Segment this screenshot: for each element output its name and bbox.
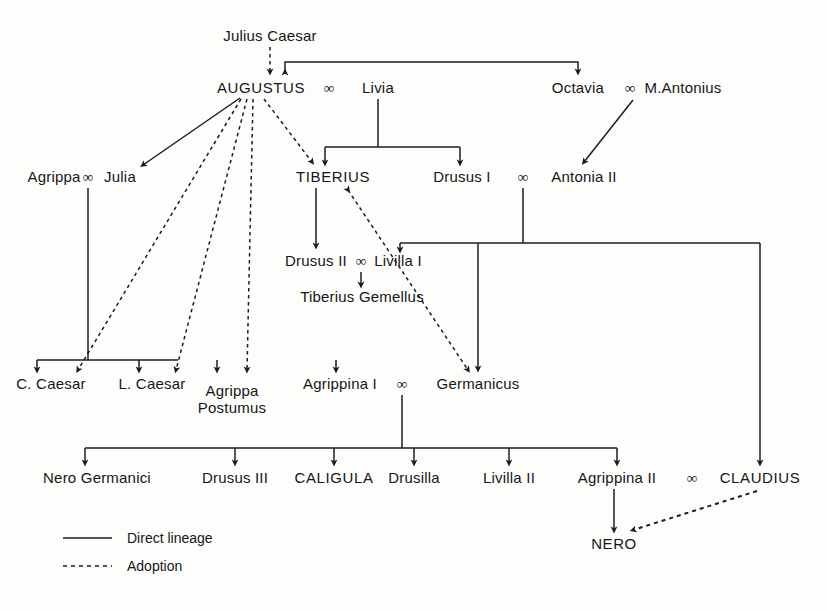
node-antonia-ii[interactable]: Antonia II [551, 169, 616, 186]
marriage-symbol-agrippa-julia: ∞ [83, 169, 94, 186]
node-livilla-i[interactable]: Livilla I [374, 253, 422, 270]
node-label: Livia [362, 79, 394, 96]
node-label: L. Caesar [119, 375, 186, 392]
node-drusilla[interactable]: Drusilla [388, 470, 440, 487]
node-drusus-ii[interactable]: Drusus II [285, 253, 347, 270]
marriage-symbol-agrippina-claudius: ∞ [687, 470, 698, 487]
node-agrippa-postumus[interactable]: Agrippa Postumus [198, 366, 266, 416]
node-label: NERO [591, 535, 637, 552]
node-claudius[interactable]: CLAUDIUS [720, 470, 801, 487]
node-label: Drusilla [388, 469, 440, 486]
marriage-symbol-octavia-antonius: ∞ [625, 80, 636, 97]
node-label: CALIGULA [295, 469, 374, 486]
node-nero-germanici[interactable]: Nero Germanici [43, 470, 151, 487]
node-label: Nero Germanici [43, 469, 151, 486]
node-nero[interactable]: NERO [591, 536, 637, 553]
node-label: Octavia [552, 79, 604, 96]
node-label: TIBERIUS [296, 168, 370, 185]
marriage-symbol-drusus-antonia: ∞ [518, 169, 529, 186]
node-label: CLAUDIUS [720, 469, 801, 486]
node-label: M.Antonius [644, 79, 721, 96]
node-julius-caesar[interactable]: Julius Caesar [223, 28, 316, 45]
node-drusus-iii[interactable]: Drusus III [202, 470, 268, 487]
node-drusus-i[interactable]: Drusus I [433, 169, 490, 186]
node-julia[interactable]: Julia [104, 169, 136, 186]
legend-adoption-label: Adoption [127, 558, 182, 574]
node-m-antonius[interactable]: M.Antonius [644, 80, 721, 97]
edge-adoption-augustus-ccaesar [78, 99, 241, 370]
node-augustus[interactable]: AUGUSTUS [217, 80, 305, 97]
node-label: AUGUSTUS [217, 79, 305, 96]
node-agrippina-i[interactable]: Agrippina I [303, 376, 377, 393]
node-tiberius[interactable]: TIBERIUS [296, 169, 370, 186]
node-label: Livilla I [374, 252, 422, 269]
edge-adoption-augustus-postumus [247, 99, 253, 370]
node-livilla-ii[interactable]: Livilla II [483, 470, 535, 487]
node-label: Agrippina I [303, 375, 377, 392]
node-agrippina-ii[interactable]: Agrippina II [578, 470, 656, 487]
legend-direct-label: Direct lineage [127, 530, 213, 546]
node-agrippa[interactable]: Agrippa [27, 169, 80, 186]
node-c-caesar[interactable]: C. Caesar [16, 376, 85, 393]
node-label: Agrippina II [578, 469, 656, 486]
node-octavia[interactable]: Octavia [552, 80, 604, 97]
node-label: Drusus I [433, 168, 490, 185]
node-label: Germanicus [437, 375, 520, 392]
marriage-symbol-drususii-livilla: ∞ [356, 253, 367, 270]
node-label: Agrippa Postumus [198, 382, 266, 416]
marriage-symbol-agrippina-germanicus: ∞ [397, 376, 408, 393]
node-livia[interactable]: Livia [362, 80, 394, 97]
node-label: Drusus II [285, 252, 347, 269]
node-label: Antonia II [551, 168, 616, 185]
node-label: Drusus III [202, 469, 268, 486]
family-tree-diagram: Julius Caesar AUGUSTUS Livia Octavia M.A… [0, 0, 827, 611]
node-label: Tiberius Gemellus [300, 288, 424, 305]
node-label: Agrippa [27, 168, 80, 185]
node-caligula[interactable]: CALIGULA [295, 470, 374, 487]
edge-adoption-augustus-tiberius [264, 99, 312, 162]
node-l-caesar[interactable]: L. Caesar [119, 376, 186, 393]
node-label: Livilla II [483, 469, 535, 486]
edge-adoption-augustus-lcaesar [176, 99, 247, 370]
edge-direct-augustus-julia [143, 98, 240, 165]
node-tiberius-gemellus[interactable]: Tiberius Gemellus [300, 289, 424, 306]
marriage-symbol-augustus-livia: ∞ [324, 80, 335, 97]
node-label: Julia [104, 168, 136, 185]
node-label: Julius Caesar [223, 27, 316, 44]
node-label: C. Caesar [16, 375, 85, 392]
node-germanicus[interactable]: Germanicus [437, 376, 520, 393]
edge-direct-antonius-antonia [584, 100, 633, 162]
edge-adoption-tiberius-germanicus [348, 190, 468, 370]
edge-adoption-claudius-nero [633, 491, 757, 530]
edge-direct-jc-bar [285, 62, 578, 72]
